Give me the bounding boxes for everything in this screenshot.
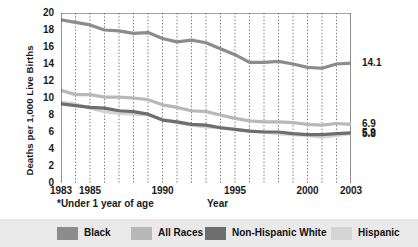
plot-svg bbox=[61, 13, 351, 183]
x-axis-title: Year bbox=[207, 199, 228, 209]
legend-item-hispanic[interactable]: Hispanic bbox=[331, 219, 400, 247]
legend-label: Non-Hispanic White bbox=[232, 228, 326, 238]
y-tick-label: 12 bbox=[26, 76, 54, 86]
x-tick-label: 1983 bbox=[50, 186, 72, 196]
x-tick-label: 1985 bbox=[79, 186, 101, 196]
y-tick-label: 4 bbox=[26, 144, 54, 154]
y-axis-tick-labels: 20181614121086420 bbox=[26, 0, 54, 247]
legend-swatch-icon bbox=[57, 227, 78, 240]
legend-item-all-races[interactable]: All Races bbox=[131, 219, 203, 247]
y-tick-label: 14 bbox=[26, 59, 54, 69]
plot-area bbox=[61, 13, 351, 183]
legend-item-non-hispanic-white[interactable]: Non-Hispanic White bbox=[205, 219, 326, 247]
x-tick-label: 2000 bbox=[296, 186, 318, 196]
legend-label: All Races bbox=[158, 228, 203, 238]
end-label-hispanic: 5.8 bbox=[362, 129, 376, 139]
legend-label: Hispanic bbox=[358, 228, 400, 238]
y-tick-label: 6 bbox=[26, 127, 54, 137]
x-tick-label: 1990 bbox=[151, 186, 173, 196]
legend-label: Black bbox=[84, 228, 111, 238]
x-tick-label: 2003 bbox=[340, 186, 362, 196]
legend: BlackAll RacesNon-Hispanic WhiteHispanic bbox=[0, 219, 418, 247]
legend-swatch-icon bbox=[131, 227, 152, 240]
legend-swatch-icon bbox=[331, 227, 352, 240]
y-tick-label: 2 bbox=[26, 161, 54, 171]
legend-swatch-icon bbox=[205, 227, 226, 240]
y-tick-label: 16 bbox=[26, 42, 54, 52]
x-tick-label: 1995 bbox=[224, 186, 246, 196]
legend-item-black[interactable]: Black bbox=[57, 219, 111, 247]
end-label-black: 14.1 bbox=[362, 58, 381, 68]
series-end-value-labels: 14.16.95.95.8 bbox=[356, 13, 412, 183]
y-tick-label: 20 bbox=[26, 8, 54, 18]
y-tick-label: 18 bbox=[26, 25, 54, 35]
infant-mortality-line-chart: Deaths per 1,000 Live Births 20181614121… bbox=[0, 0, 418, 247]
y-tick-label: 10 bbox=[26, 93, 54, 103]
footnote: *Under 1 year of age bbox=[57, 199, 154, 209]
y-tick-label: 8 bbox=[26, 110, 54, 120]
